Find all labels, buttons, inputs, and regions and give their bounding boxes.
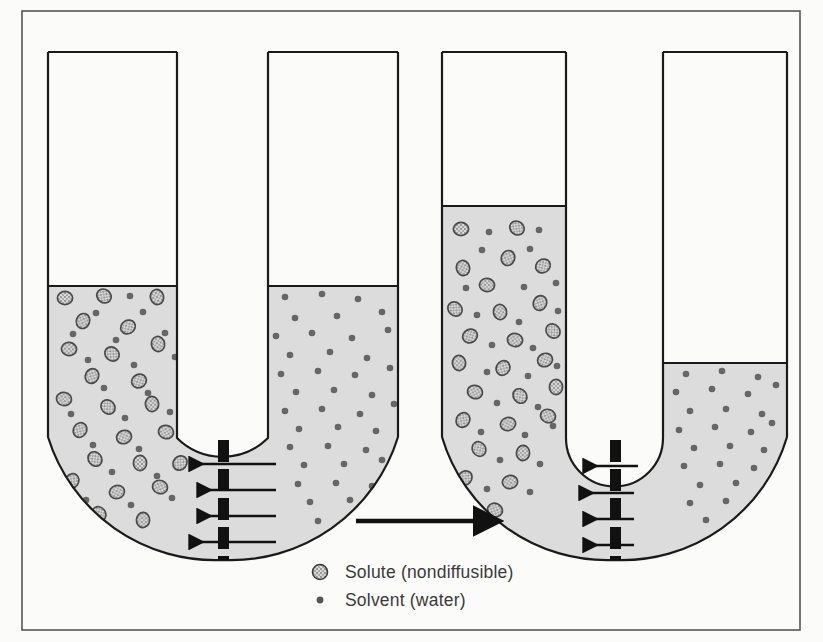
solvent-dot-icon [703, 517, 710, 524]
solvent-dot-icon [727, 443, 734, 450]
solvent-dot-icon [352, 372, 359, 379]
solvent-dot-icon [521, 284, 528, 291]
solvent-dot-icon [93, 310, 100, 317]
solvent-dot-icon [315, 368, 322, 375]
solvent-dot-icon [68, 411, 75, 418]
solvent-dot-icon [530, 345, 537, 352]
solvent-dot-icon [369, 392, 376, 399]
solute-particle-icon [57, 291, 72, 304]
solvent-dot-icon [739, 515, 746, 522]
solvent-dot-icon [717, 461, 724, 468]
solvent-dot-icon [85, 357, 92, 364]
solvent-dot-icon [751, 465, 758, 472]
legend-label-solvent: Solvent (water) [345, 590, 466, 610]
solvent-dot-icon [154, 473, 161, 480]
solvent-dot-icon [379, 309, 386, 316]
legend-item-solvent: Solvent (water) [317, 590, 466, 610]
solvent-dot-icon [723, 406, 730, 413]
solvent-dot-icon [347, 497, 354, 504]
solvent-dot-icon [373, 428, 380, 435]
solvent-dot-icon [127, 293, 134, 300]
solvent-dot-icon [319, 291, 326, 298]
solvent-dot-icon [479, 247, 486, 254]
solvent-dot-icon [296, 426, 303, 433]
solute-particle-icon [452, 355, 467, 371]
solvent-dot-icon [364, 355, 371, 362]
solvent-dot-icon [536, 227, 543, 234]
solvent-dot-icon [282, 294, 289, 301]
solvent-dot-icon [691, 445, 698, 452]
u-tube-before [48, 52, 398, 560]
osmosis-diagram: Solute (nondiffusible) Solvent (water) [0, 0, 823, 642]
solvent-dot-icon [333, 480, 340, 487]
solvent-dot-icon [683, 371, 690, 378]
solvent-dot-icon [484, 486, 491, 493]
solute-particle-icon [145, 396, 160, 412]
solvent-dot-icon [90, 442, 97, 449]
solvent-dot-icon [522, 432, 529, 439]
solvent-dot-icon [325, 443, 332, 450]
solvent-dot-icon [315, 518, 322, 525]
solvent-dot-icon [516, 319, 523, 326]
solvent-dot-icon [309, 330, 316, 337]
solvent-dot-icon [128, 502, 135, 509]
solvent-dot-icon [550, 423, 557, 430]
solute-particle-icon [61, 342, 77, 356]
solvent-dot-icon [334, 313, 341, 320]
solvent-dot-icon [282, 408, 289, 415]
solvent-dot-icon [341, 461, 348, 468]
solvent-dot-icon [307, 499, 314, 506]
solvent-dot-icon [474, 312, 481, 319]
solvent-dot-icon [748, 429, 755, 436]
solvent-dot-icon [335, 424, 342, 431]
legend: Solute (nondiffusible) Solvent (water) [313, 562, 514, 610]
solvent-dot-icon [769, 420, 776, 427]
solvent-dot-icon [527, 246, 534, 253]
solvent-dot-icon [169, 495, 176, 502]
solvent-dot-icon [733, 480, 740, 487]
solvent-dot-icon [278, 371, 285, 378]
solvent-dot-icon [363, 447, 370, 454]
solvent-dot-icon [687, 408, 694, 415]
solute-particle-icon [516, 445, 530, 461]
solvent-dot-icon [494, 400, 501, 407]
solvent-dot-icon [357, 411, 364, 418]
solvent-dot-icon [745, 391, 752, 398]
solvent-dot-icon [527, 489, 534, 496]
solvent-dot-icon [317, 597, 324, 604]
legend-label-solute: Solute (nondiffusible) [345, 562, 514, 582]
solvent-dot-icon [484, 369, 491, 376]
solvent-dot-icon [497, 457, 504, 464]
solvent-dot-icon [301, 462, 308, 469]
solvent-dot-icon [385, 327, 392, 334]
solvent-dot-icon [167, 409, 174, 416]
solvent-dot-icon [755, 374, 762, 381]
solvent-dot-icon [537, 461, 544, 468]
solvent-dot-icon [355, 296, 362, 303]
solvent-dot-icon [379, 457, 386, 464]
solvent-dot-icon [292, 315, 299, 322]
solvent-dot-icon [145, 390, 152, 397]
solvent-dot-icon [162, 330, 169, 337]
solvent-dot-icon [553, 280, 560, 287]
solute-particle-icon [313, 565, 328, 580]
solvent-dot-icon [761, 447, 768, 454]
solvent-dot-icon [319, 406, 326, 413]
solvent-dot-icon [673, 389, 680, 396]
solvent-dot-icon [719, 368, 726, 375]
legend-item-solute: Solute (nondiffusible) [313, 562, 514, 582]
solvent-dot-icon [486, 229, 493, 236]
solvent-dot-icon [478, 429, 485, 436]
solvent-dot-icon [113, 337, 120, 344]
solvent-dot-icon [554, 363, 561, 370]
solvent-dot-icon [712, 424, 719, 431]
solvent-dot-icon [101, 385, 108, 392]
solvent-dot-icon [535, 404, 542, 411]
solvent-dot-icon [463, 285, 470, 292]
solvent-dot-icon [273, 333, 280, 340]
solvent-dot-icon [295, 481, 302, 488]
solvent-dot-icon [109, 469, 116, 476]
solvent-dot-icon [131, 362, 138, 369]
solute-particle-icon [136, 512, 150, 528]
solvent-dot-icon [391, 401, 398, 408]
